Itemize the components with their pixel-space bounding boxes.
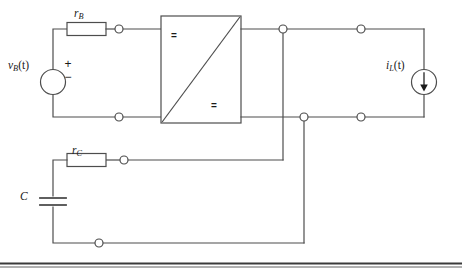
resistor-rc-label: rC [72, 145, 82, 159]
converter-output-dc-symbol: = [211, 101, 217, 111]
figure-bottom-rule [0, 264, 462, 268]
schematic-canvas [0, 0, 462, 271]
terminal-bottom-rail [95, 239, 103, 247]
capacitor-label: C [20, 191, 28, 203]
terminal-output-bottom-2 [357, 113, 365, 121]
terminal-output-top-1 [279, 25, 287, 33]
converter-input-dc-symbol: = [171, 31, 177, 41]
terminal-input-bottom [115, 113, 123, 121]
resistor-rb-symbol [67, 23, 106, 36]
circuit-diagram-figure: vB(t) iL(t) rB rC C = = + − [0, 0, 462, 271]
wire-source-bottom [53, 94, 115, 117]
terminal-rc-branch [120, 156, 128, 164]
terminal-output-top-2 [357, 25, 365, 33]
wire-capacitor-bottom-lead [53, 207, 95, 243]
source-voltage-label: vB(t) [8, 60, 29, 74]
terminal-input-top [115, 25, 123, 33]
load-current-label: iL(t) [386, 60, 405, 74]
terminal-output-bottom-1 [300, 113, 308, 121]
source-plus-sign: + [62, 58, 74, 70]
resistor-rb-label: rB [74, 8, 84, 22]
wire-rc-to-capacitor [53, 160, 67, 196]
source-minus-sign: − [62, 71, 74, 83]
